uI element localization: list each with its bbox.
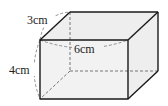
depth-label: 3cm [27, 13, 48, 27]
height-label: 4cm [9, 63, 30, 77]
box-diagram: 3cm 6cm 4cm [0, 0, 168, 106]
width-label: 6cm [74, 42, 95, 56]
